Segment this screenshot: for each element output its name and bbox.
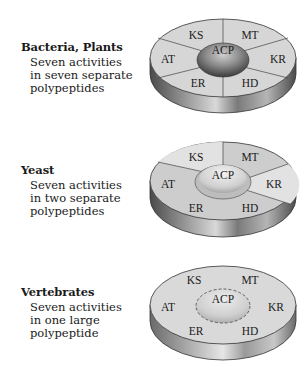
segment-label: HD [242, 77, 259, 89]
segment-label: KR [266, 178, 282, 190]
segment-label: MT [241, 274, 258, 286]
acp-label: ACP [212, 44, 234, 56]
segment-label: HD [242, 325, 259, 337]
disk-vertebrates: ACP KS MT KR HD ER AT [146, 261, 302, 365]
fas-disk-two-chain-icon: ACP KS MT KR HD ER AT [146, 136, 302, 240]
segment-label: KR [268, 301, 284, 313]
caption-vertebrates: Vertebrates Seven activities in one larg… [22, 285, 122, 340]
segment-label: ER [189, 202, 204, 214]
caption-yeast: Yeast Seven activities in two separate p… [22, 163, 122, 218]
disk-bacteria-plants: ACP KS MT KR HD ER AT [146, 14, 302, 118]
organism-title: Vertebrates [21, 285, 122, 299]
acp-label: ACP [212, 169, 234, 181]
organism-title: Yeast [21, 163, 122, 177]
acp-label: ACP [212, 293, 234, 305]
segment-label: MT [241, 29, 258, 41]
segment-label: HD [242, 202, 259, 214]
segment-label: KS [187, 274, 202, 286]
segment-label: AT [161, 53, 175, 65]
segment-label: MT [241, 151, 258, 163]
segment-label: AT [161, 301, 175, 313]
segment-label: KS [189, 29, 204, 41]
description: Seven activities in one large polypeptid… [30, 301, 122, 340]
fas-disk-single-chain-icon: ACP KS MT KR HD ER AT [146, 261, 302, 365]
fas-disk-separate-icon: ACP KS MT KR HD ER AT [146, 14, 302, 118]
segment-label: KR [270, 53, 286, 65]
segment-label: AT [161, 178, 175, 190]
description: Seven activities in seven separate polyp… [30, 56, 133, 95]
segment-label: ER [189, 325, 204, 337]
description: Seven activities in two separate polypep… [30, 179, 122, 218]
segment-label: KS [189, 151, 204, 163]
organism-title: Bacteria, Plants [21, 40, 133, 54]
caption-bacteria-plants: Bacteria, Plants Seven activities in sev… [22, 40, 133, 95]
segment-label: ER [191, 77, 206, 89]
disk-yeast: ACP KS MT KR HD ER AT [146, 136, 302, 240]
